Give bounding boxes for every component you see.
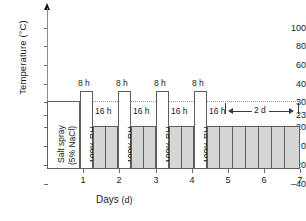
segment-divider-9 xyxy=(284,127,285,168)
x-tick-label-3: 3 xyxy=(146,176,166,185)
segment-divider-8 xyxy=(271,127,272,168)
segment-divider-4 xyxy=(219,127,220,168)
y-tick-label-100: 100 xyxy=(272,24,306,33)
segment-divider-3 xyxy=(181,127,182,168)
duration-label-8h-3: 8 h xyxy=(154,79,166,88)
x-tick-label-7: 7 xyxy=(290,176,306,185)
segment-divider-5 xyxy=(232,127,233,168)
x-tick-mark-5 xyxy=(228,169,229,173)
duration-label-8h-2: 8 h xyxy=(116,79,128,88)
x-tick-mark-4 xyxy=(192,169,193,173)
annotation-end-tick-right xyxy=(298,103,299,114)
x-tick-mark-6 xyxy=(264,169,265,173)
segment-storage-2d xyxy=(207,126,300,169)
x-tick-mark-7 xyxy=(300,169,301,173)
x-tick-label-2: 2 xyxy=(109,176,129,185)
x-tick-label-1: 1 xyxy=(73,176,93,185)
x-tick-label-4: 4 xyxy=(182,176,202,185)
duration-label-16h-4: 16 h xyxy=(209,107,226,116)
duration-label-16h-1: 16 h xyxy=(95,107,112,116)
duration-label-16h-2: 16 h xyxy=(133,107,150,116)
annotation-line-left xyxy=(232,111,252,112)
y-tick-mark-minus40 xyxy=(44,184,48,185)
segment-divider-1 xyxy=(105,127,106,168)
duration-label-8h-4: 8 h xyxy=(192,79,204,88)
x-tick-mark-2 xyxy=(119,169,120,173)
x-tick-label-5: 5 xyxy=(218,176,238,185)
y-tick-label-40: 40 xyxy=(272,80,306,89)
x-axis-label-text: Days xyxy=(96,194,119,205)
x-tick-mark-3 xyxy=(156,169,157,173)
segment-label-salt-spray-line1: Salt spray xyxy=(57,125,66,163)
arrow-right-icon xyxy=(289,108,294,114)
x-axis-label-unit: (d) xyxy=(122,195,133,205)
y-axis-label: Temperature (°C) xyxy=(17,3,28,113)
x-axis-label: Days (d) xyxy=(96,194,133,205)
segment-label-salt-spray-line2: (5% NaCl) xyxy=(68,126,77,165)
annotation-label-2d: 2 d xyxy=(254,106,266,115)
duration-label-8h-1: 8 h xyxy=(78,79,90,88)
annotation-end-tick-left xyxy=(225,103,226,114)
x-tick-mark-1 xyxy=(83,169,84,173)
annotation-line-right xyxy=(269,111,289,112)
duration-label-16h-3: 16 h xyxy=(171,107,188,116)
temperature-cycle-chart: Temperature (°C) 100 80 60 40 30 23 20 0… xyxy=(0,0,306,221)
y-tick-label-30: 30 xyxy=(272,98,306,107)
y-tick-label-60: 60 xyxy=(272,61,306,70)
x-tick-label-6: 6 xyxy=(254,176,274,185)
segment-divider-2 xyxy=(143,127,144,168)
y-tick-label-80: 80 xyxy=(272,42,306,51)
segment-divider-6 xyxy=(245,127,246,168)
segment-divider-7 xyxy=(258,127,259,168)
